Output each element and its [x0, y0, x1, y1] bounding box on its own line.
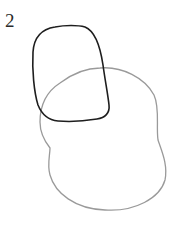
figure-canvas: 2	[0, 0, 189, 226]
dark-rounded-shape	[33, 26, 109, 122]
shapes-svg	[0, 0, 189, 226]
gray-blob-shape	[40, 68, 166, 210]
